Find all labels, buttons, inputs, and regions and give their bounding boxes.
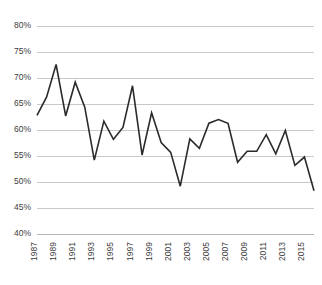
y-axis-tick-label: 80% bbox=[14, 20, 31, 30]
y-axis-tick-label: 65% bbox=[14, 98, 31, 108]
x-axis-tick-label: 2001 bbox=[163, 242, 173, 261]
y-axis-tick-label: 70% bbox=[14, 72, 31, 82]
y-axis-tick-label: 40% bbox=[14, 228, 31, 238]
x-axis-tick-label: 2007 bbox=[220, 242, 230, 261]
x-axis-tick-label: 1993 bbox=[86, 242, 96, 261]
y-axis-tick-label: 45% bbox=[14, 202, 31, 212]
x-axis-tick-label: 2011 bbox=[258, 242, 268, 261]
x-axis-tick-label: 2013 bbox=[277, 242, 287, 261]
y-axis-tick-label: 75% bbox=[14, 46, 31, 56]
x-axis-tick-label: 2009 bbox=[239, 242, 249, 261]
x-axis-tick-label: 2003 bbox=[182, 242, 192, 261]
y-axis-tick-label: 55% bbox=[14, 150, 31, 160]
x-axis-tick-label: 2015 bbox=[296, 242, 306, 261]
x-axis-tick-label: 1999 bbox=[144, 242, 154, 261]
x-axis-tick-label: 1987 bbox=[29, 242, 39, 261]
x-axis-tick-label: 1997 bbox=[125, 242, 135, 261]
x-axis-tick-label: 1989 bbox=[48, 242, 58, 261]
x-axis-tick-labels: 1987198919911993199519971999200120032005… bbox=[29, 242, 306, 261]
chart-canvas: 80%75%70%65%60%55%50%45%40% 198719891991… bbox=[0, 0, 322, 285]
x-axis-tick-label: 1991 bbox=[67, 242, 77, 261]
x-axis-tick-label: 1995 bbox=[105, 242, 115, 261]
y-axis-tick-label: 60% bbox=[14, 124, 31, 134]
x-axis-tick-label: 2005 bbox=[201, 242, 211, 261]
line-chart: 80%75%70%65%60%55%50%45%40% 198719891991… bbox=[0, 0, 322, 285]
y-axis-tick-labels: 80%75%70%65%60%55%50%45%40% bbox=[14, 20, 31, 238]
y-axis-tick-label: 50% bbox=[14, 176, 31, 186]
